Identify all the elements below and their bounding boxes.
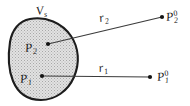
point-marker-P1-0	[148, 75, 152, 79]
volume-label-base: V	[35, 3, 44, 18]
point-label-P1: P1	[19, 69, 33, 88]
source-volume-label: Vs	[35, 1, 48, 20]
point-label-P2-0: P20	[165, 7, 179, 26]
point-marker-P2-0	[160, 15, 164, 19]
point-label-P1-base: P	[19, 71, 28, 86]
point-label-P2-base: P	[24, 40, 33, 55]
point-marker-P2	[46, 42, 50, 46]
point-label-P2: P2	[24, 38, 38, 57]
point-label-P1-0: P10	[156, 67, 170, 86]
source-volume-shape	[9, 18, 78, 100]
figure-canvas: Vs P2 P1 r2 r1 P20 P10	[0, 0, 190, 106]
point-marker-P1	[40, 74, 44, 78]
